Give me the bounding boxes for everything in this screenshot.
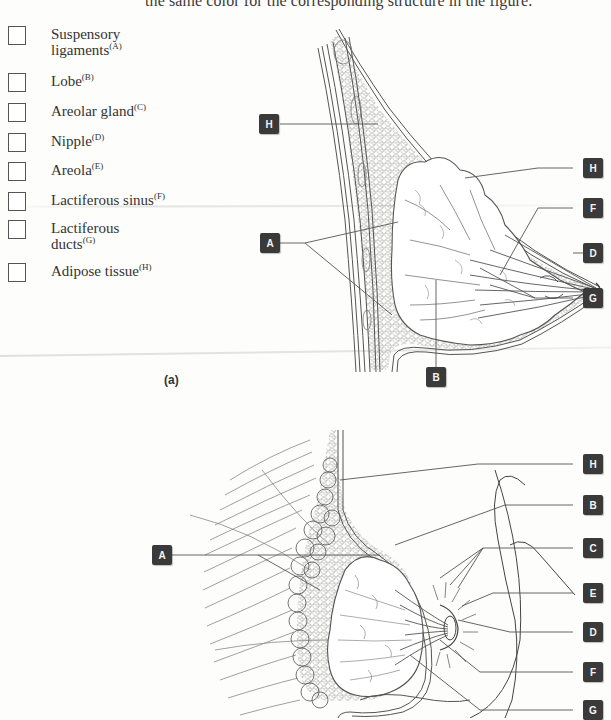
leader-line-E — [462, 593, 573, 606]
leader-line-C-3 — [458, 548, 483, 588]
label-tag-F[interactable]: F — [583, 198, 603, 218]
label-tag-A[interactable]: A — [260, 233, 280, 253]
label-tag-H[interactable]: H — [259, 114, 279, 134]
areola — [440, 605, 458, 650]
label-tag-G[interactable]: G — [583, 288, 603, 308]
label-tag-H[interactable]: H — [583, 158, 603, 178]
leader-line-G — [410, 655, 573, 710]
figure-b-frontal-view — [190, 430, 575, 718]
label-tag-E[interactable]: E — [583, 583, 603, 603]
label-tag-D[interactable]: D — [583, 622, 603, 642]
label-tag-B[interactable]: B — [583, 495, 603, 515]
label-tag-H[interactable]: H — [583, 454, 603, 474]
leader-line-H-right — [465, 168, 573, 178]
figure-a-sagittal-section — [318, 29, 600, 372]
leader-line-C-2 — [450, 548, 483, 585]
label-tag-D[interactable]: D — [583, 243, 603, 263]
label-tag-F[interactable]: F — [583, 662, 603, 682]
figure-a-caption: (a) — [164, 373, 179, 387]
label-tag-A[interactable]: A — [152, 545, 172, 565]
nipple — [444, 616, 456, 640]
leader-line-F — [440, 640, 573, 672]
body-contour-arc — [470, 470, 521, 718]
label-tag-G[interactable]: G — [583, 700, 603, 720]
leader-line-H — [340, 464, 573, 480]
label-tag-B[interactable]: B — [426, 367, 446, 387]
label-tag-C[interactable]: C — [583, 538, 603, 558]
leader-line-B — [395, 505, 573, 545]
